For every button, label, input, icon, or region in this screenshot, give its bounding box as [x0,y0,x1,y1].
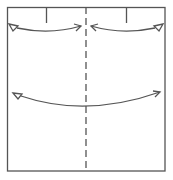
upper-right-arrow [91,24,163,31]
fold-diagram [0,0,173,180]
hollow-triangle-icon [9,24,18,31]
hollow-triangle-icon [13,93,22,99]
upper-left-arrow [9,24,81,31]
hollow-triangle-icon [154,24,163,31]
